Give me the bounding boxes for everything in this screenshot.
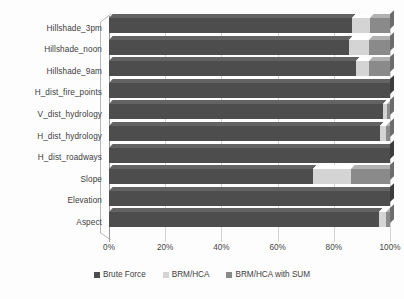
- stacked-bar[interactable]: [109, 148, 390, 163]
- category-label: Elevation: [6, 196, 102, 205]
- bar-segment-top-face: [313, 165, 355, 169]
- bar-segment[interactable]: [109, 83, 390, 98]
- bar-row: [109, 148, 390, 163]
- bar-segment-top-face: [109, 100, 387, 104]
- stacked-bar[interactable]: [109, 104, 390, 119]
- legend-item[interactable]: Brute Force: [94, 270, 146, 279]
- legend-item[interactable]: BRM/HCA with SUM: [226, 270, 310, 279]
- bar-segment[interactable]: [351, 169, 390, 184]
- category-axis: Hillshade_3pmHillshade_noonHillshade_9am…: [6, 18, 102, 234]
- bar-segment[interactable]: [352, 18, 370, 33]
- x-axis-tick-label: 60%: [269, 243, 285, 252]
- category-label: V_dist_hydrology: [6, 110, 102, 119]
- bar-segment[interactable]: [109, 104, 383, 119]
- bar-end-face: [390, 53, 394, 72]
- bar-segment[interactable]: [356, 61, 369, 76]
- stacked-bar[interactable]: [109, 169, 390, 184]
- category-label: Hillshade_noon: [6, 45, 102, 54]
- bar-segment[interactable]: [109, 148, 390, 163]
- bar-end-face: [390, 205, 394, 224]
- legend-label: BRM/HCA with SUM: [235, 270, 310, 279]
- category-label: Hillshade_3pm: [6, 24, 102, 33]
- legend-item[interactable]: BRM/HCA: [163, 270, 210, 279]
- bar-row: [109, 126, 390, 141]
- bar-segment[interactable]: [313, 169, 351, 184]
- plot-area: [109, 16, 390, 238]
- legend-swatch-icon: [163, 272, 169, 278]
- bar-segment-top-face: [351, 165, 394, 169]
- stacked-bar[interactable]: [109, 18, 390, 33]
- x-axis-tick-label: 20%: [157, 243, 173, 252]
- bar-segment[interactable]: [379, 212, 386, 227]
- stacked-bar[interactable]: [109, 83, 390, 98]
- bar-row: [109, 169, 390, 184]
- bar-segment[interactable]: [109, 212, 379, 227]
- legend-swatch-icon: [94, 272, 100, 278]
- bar-segment[interactable]: [109, 18, 352, 33]
- stacked-bar[interactable]: [109, 61, 390, 76]
- bar-row: [109, 191, 390, 206]
- bar-segment-top-face: [109, 165, 316, 169]
- category-label: H_dist_fire_points: [6, 88, 102, 97]
- bar-segment[interactable]: [370, 18, 390, 33]
- bar-segment[interactable]: [109, 191, 390, 206]
- bar-segment-top-face: [109, 144, 394, 148]
- category-label: Slope: [6, 175, 102, 184]
- bar-segment-top-face: [109, 208, 382, 212]
- bar-row: [109, 61, 390, 76]
- bar-segment[interactable]: [369, 61, 390, 76]
- bar-end-face: [390, 32, 394, 51]
- category-label: Hillshade_9am: [6, 67, 102, 76]
- x-axis-tick-label: 100%: [380, 243, 401, 252]
- bar-end-face: [390, 75, 394, 94]
- x-axis: 0%20%40%60%80%100%: [0, 243, 404, 255]
- x-axis-tick-label: 80%: [326, 243, 342, 252]
- bar-end-face: [390, 118, 394, 137]
- category-label: H_dist_hydrology: [6, 132, 102, 141]
- bar-segment-top-face: [109, 57, 360, 61]
- bar-segment-top-face: [109, 14, 356, 18]
- bar-segment-top-face: [109, 79, 394, 83]
- bar-segment[interactable]: [369, 40, 390, 55]
- x-axis-tick-label: 0%: [103, 243, 115, 252]
- category-label: Aspect: [6, 218, 102, 227]
- stacked-bar[interactable]: [109, 126, 390, 141]
- stacked-bar[interactable]: [109, 212, 390, 227]
- bar-row: [109, 40, 390, 55]
- bar-segment[interactable]: [109, 169, 313, 184]
- bar-end-face: [390, 140, 394, 159]
- bar-segment[interactable]: [109, 61, 356, 76]
- bar-row: [109, 104, 390, 119]
- bar-row: [109, 18, 390, 33]
- x-axis-tick-label: 40%: [213, 243, 229, 252]
- bar-row: [109, 83, 390, 98]
- bar-rows: [109, 16, 390, 232]
- legend-label: BRM/HCA: [172, 270, 210, 279]
- bar-end-face: [390, 183, 394, 202]
- legend-swatch-icon: [226, 272, 232, 278]
- bar-segment-top-face: [109, 36, 353, 40]
- bar-segment-top-face: [109, 187, 394, 191]
- stacked-bar[interactable]: [109, 191, 390, 206]
- bar-segment[interactable]: [109, 40, 349, 55]
- bar-end-face: [390, 161, 394, 180]
- stacked-bar-chart: Hillshade_3pmHillshade_noonHillshade_9am…: [0, 0, 404, 299]
- bar-segment[interactable]: [109, 126, 380, 141]
- bar-end-face: [390, 10, 394, 29]
- bar-segment-top-face: [109, 122, 384, 126]
- bar-segment[interactable]: [349, 40, 369, 55]
- category-label: H_dist_roadways: [6, 153, 102, 162]
- legend-label: Brute Force: [103, 270, 146, 279]
- chart-legend: Brute ForceBRM/HCABRM/HCA with SUM: [0, 270, 404, 279]
- stacked-bar[interactable]: [109, 40, 390, 55]
- bar-end-face: [390, 97, 394, 116]
- bar-row: [109, 212, 390, 227]
